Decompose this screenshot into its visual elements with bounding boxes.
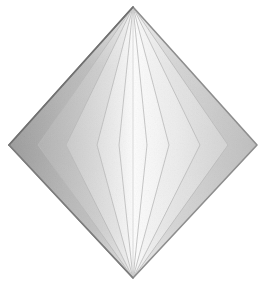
drawing-canvas: Faceted Bipyramid Crystal Drawing Nested… — [0, 0, 267, 292]
octahedral-crystal-figure — [0, 0, 267, 292]
pencil-grain-texture — [0, 0, 267, 292]
